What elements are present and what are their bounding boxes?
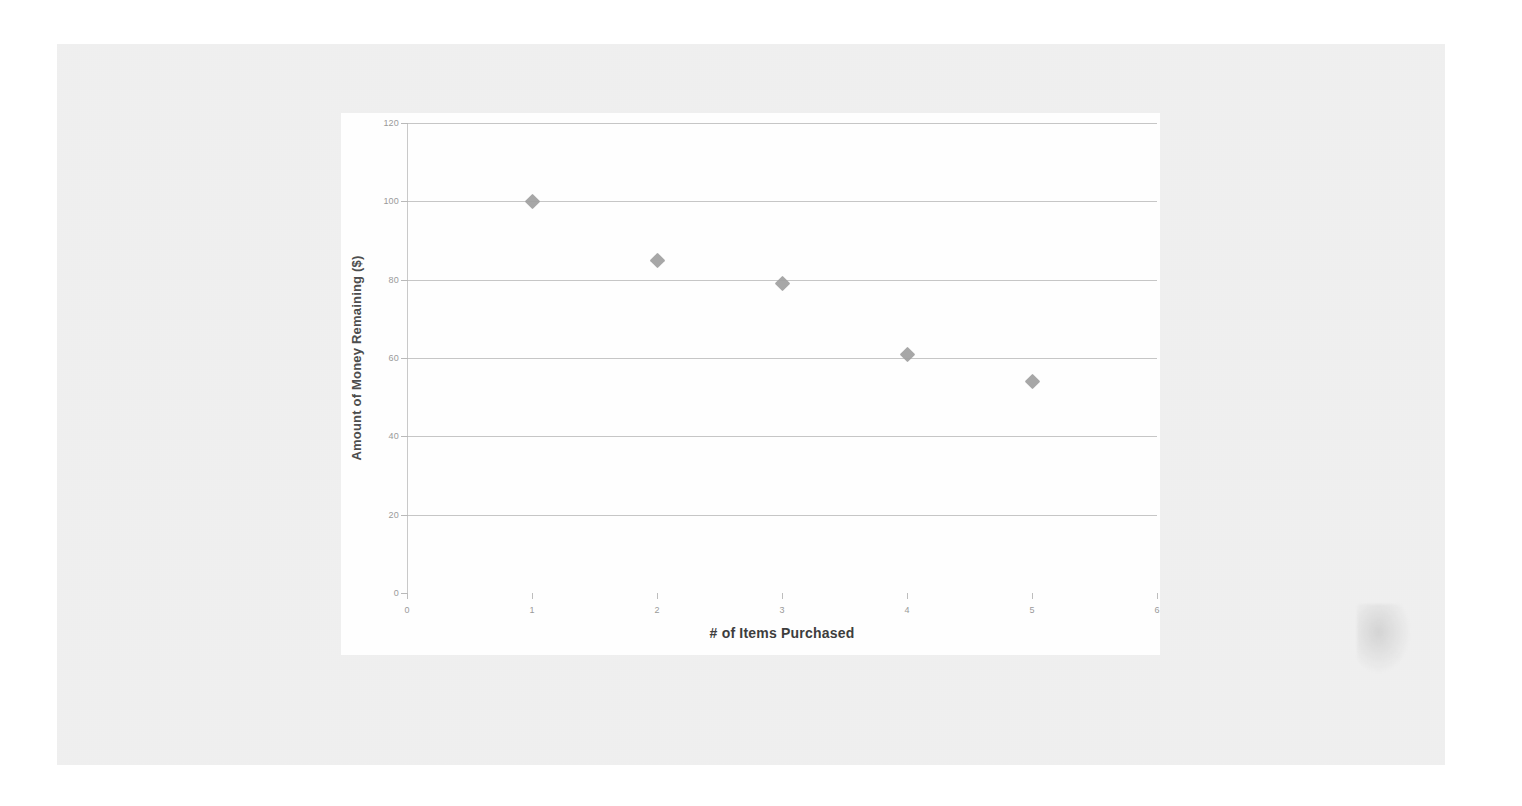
x-tick-mark [532,593,533,599]
x-tick-mark [1032,593,1033,599]
data-point [774,276,790,292]
x-tick-label: 4 [904,605,909,615]
gridline [407,201,1157,202]
y-tick-label: 60 [389,353,399,363]
x-tick-mark [907,593,908,599]
y-tick-label: 20 [389,510,399,520]
x-tick-label: 2 [654,605,659,615]
x-axis-title: # of Items Purchased [407,625,1157,641]
scanned-page: 020406080100120 0123456 Amount of Money … [0,0,1522,806]
y-axis-title: Amount of Money Remaining ($) [347,123,365,593]
x-axis-tick-labels: 0123456 [407,605,1157,621]
data-point [524,194,540,210]
data-point [1024,374,1040,390]
scatter-chart: 020406080100120 0123456 Amount of Money … [341,113,1160,655]
chart-card: 020406080100120 0123456 Amount of Money … [341,113,1160,655]
y-tick-mark [401,515,408,516]
gridline [407,123,1157,124]
data-point [899,346,915,362]
gridline [407,515,1157,516]
x-tick-label: 1 [529,605,534,615]
x-tick-label: 5 [1029,605,1034,615]
data-point [649,252,665,268]
gridline [407,436,1157,437]
gridline [407,358,1157,359]
x-tick-label: 6 [1154,605,1159,615]
y-tick-label: 100 [383,196,399,206]
y-tick-label: 80 [389,275,399,285]
scan-smudge-artifact [1357,604,1411,674]
x-tick-mark [407,593,408,599]
y-tick-label: 40 [389,431,399,441]
y-tick-mark [401,280,408,281]
x-tick-mark [782,593,783,599]
x-tick-label: 0 [404,605,409,615]
x-tick-mark [657,593,658,599]
y-tick-mark [401,201,408,202]
plot-area [407,123,1157,593]
y-tick-mark [401,358,408,359]
y-tick-label: 120 [383,118,399,128]
y-tick-label: 0 [394,588,399,598]
y-tick-mark [401,123,408,124]
x-tick-label: 3 [779,605,784,615]
x-tick-mark [1157,593,1158,599]
y-tick-mark [401,436,408,437]
